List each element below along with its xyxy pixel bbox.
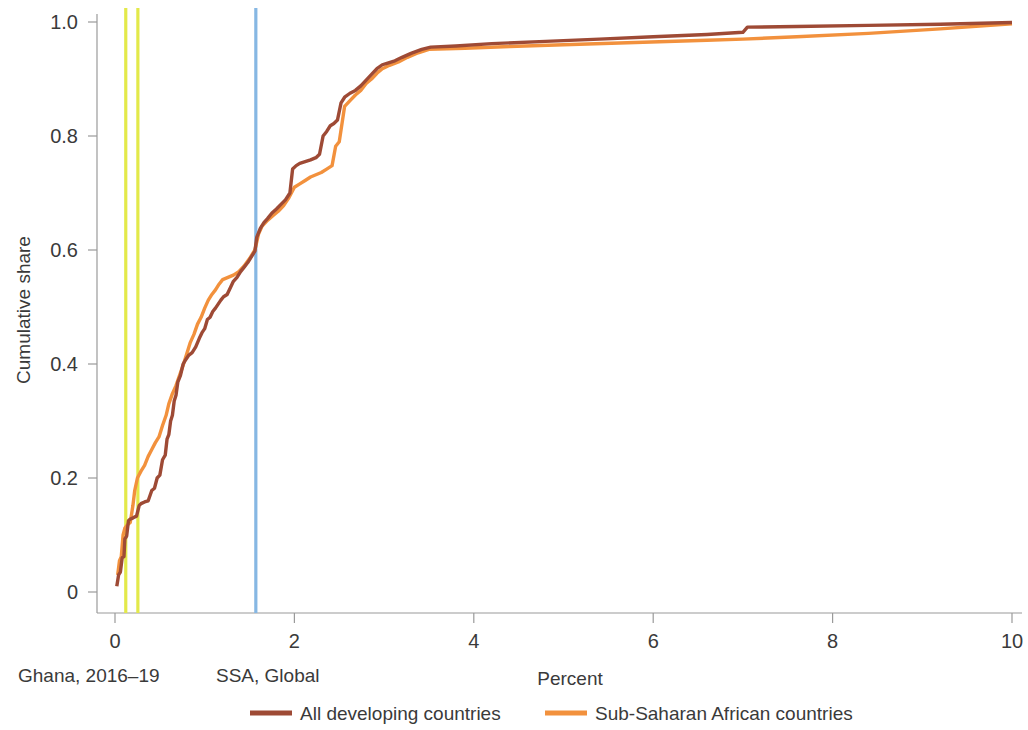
annotation-ssa-global: SSA, Global [216,665,320,686]
chart-legend: All developing countries Sub-Saharan Afr… [250,703,853,724]
x-tick-label-6: 6 [648,630,659,652]
y-axis-title: Cumulative share [13,236,34,384]
y-tick-label-0: 0 [67,581,78,603]
y-axis-tick-labels: 1.0 0.8 0.6 0.4 0.2 0 [50,11,78,603]
reference-lines-group [126,8,256,613]
x-tick-label-8: 8 [827,630,838,652]
annotation-ghana-2016-19: Ghana, 2016–19 [18,665,160,686]
y-tick-label-0.8: 0.8 [50,125,78,147]
x-axis-ticks [115,613,1012,623]
legend-label-sub-saharan-african-countries: Sub-Saharan African countries [595,703,853,724]
x-tick-label-4: 4 [468,630,479,652]
x-tick-label-10: 10 [1001,630,1023,652]
x-tick-label-2: 2 [289,630,300,652]
x-axis-title: Percent [537,668,603,689]
y-tick-label-0.6: 0.6 [50,239,78,261]
y-tick-label-1.0: 1.0 [50,11,78,33]
x-axis-tick-labels: 0 2 4 6 8 10 [109,630,1023,652]
y-axis-ticks [88,22,97,592]
chart-figure: 1.0 0.8 0.6 0.4 0.2 0 0 2 4 6 8 10 Cumul… [0,0,1028,730]
cumulative-share-line-chart: 1.0 0.8 0.6 0.4 0.2 0 0 2 4 6 8 10 Cumul… [0,0,1028,730]
legend-label-all-developing-countries: All developing countries [300,703,501,724]
series-line-sub-saharan-african-countries [118,24,1012,575]
y-tick-label-0.2: 0.2 [50,467,78,489]
series-line-all-developing-countries [117,23,1012,587]
x-tick-label-0: 0 [109,630,120,652]
y-tick-label-0.4: 0.4 [50,353,78,375]
